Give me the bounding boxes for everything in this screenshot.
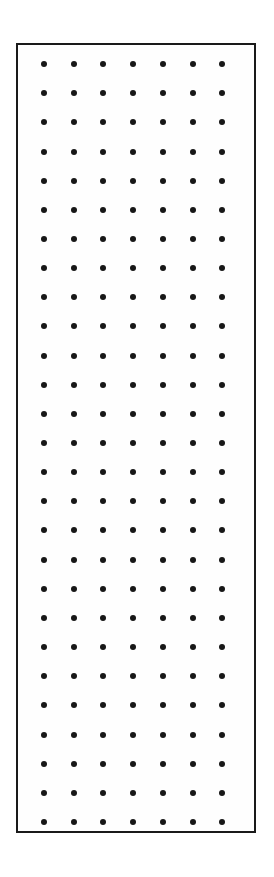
grid-dot	[219, 790, 225, 796]
grid-dot	[130, 440, 136, 446]
grid-dot	[100, 644, 106, 650]
grid-dot	[100, 615, 106, 621]
dot-grid-figure	[0, 0, 274, 877]
grid-dot	[100, 498, 106, 504]
grid-dot	[190, 557, 196, 563]
grid-dot	[41, 615, 47, 621]
grid-dot	[71, 557, 77, 563]
grid-dot	[71, 149, 77, 155]
grid-dot	[41, 207, 47, 213]
grid-dot	[71, 790, 77, 796]
grid-dot	[41, 61, 47, 67]
grid-dot	[160, 761, 166, 767]
grid-dot	[100, 790, 106, 796]
grid-dot	[100, 323, 106, 329]
grid-dot	[71, 586, 77, 592]
grid-dot	[130, 178, 136, 184]
grid-dot	[130, 61, 136, 67]
grid-dot	[160, 353, 166, 359]
grid-dot	[130, 149, 136, 155]
grid-dot	[160, 61, 166, 67]
grid-dot	[219, 615, 225, 621]
grid-dot	[71, 761, 77, 767]
grid-dot	[71, 207, 77, 213]
grid-dot	[219, 90, 225, 96]
grid-dot	[100, 294, 106, 300]
grid-dot	[130, 527, 136, 533]
grid-dot	[160, 702, 166, 708]
grid-dot	[100, 527, 106, 533]
grid-dot	[160, 236, 166, 242]
grid-dot	[219, 557, 225, 563]
grid-dot	[190, 673, 196, 679]
grid-dot	[130, 236, 136, 242]
grid-dot	[100, 90, 106, 96]
grid-dot	[219, 294, 225, 300]
grid-dot	[100, 586, 106, 592]
grid-dot	[160, 119, 166, 125]
grid-dot	[160, 586, 166, 592]
grid-dot	[160, 673, 166, 679]
grid-dot	[41, 119, 47, 125]
grid-dot	[130, 586, 136, 592]
grid-dot	[130, 761, 136, 767]
grid-dot	[71, 615, 77, 621]
grid-frame-border	[16, 43, 256, 833]
grid-dot	[41, 411, 47, 417]
grid-dot	[190, 469, 196, 475]
grid-dot	[160, 178, 166, 184]
grid-dot	[41, 498, 47, 504]
grid-dot	[130, 673, 136, 679]
grid-dot	[71, 673, 77, 679]
grid-dot	[41, 323, 47, 329]
grid-dot	[41, 178, 47, 184]
grid-dot	[160, 294, 166, 300]
grid-dot	[71, 353, 77, 359]
grid-dot	[130, 469, 136, 475]
grid-dot	[219, 353, 225, 359]
grid-dot	[219, 819, 225, 825]
grid-dot	[190, 265, 196, 271]
grid-dot	[190, 61, 196, 67]
grid-dot	[41, 702, 47, 708]
grid-dot	[71, 294, 77, 300]
grid-dot	[130, 90, 136, 96]
grid-dot	[130, 644, 136, 650]
grid-dot	[130, 498, 136, 504]
grid-dot	[160, 790, 166, 796]
grid-dot	[41, 586, 47, 592]
grid-dot	[100, 702, 106, 708]
grid-dot	[41, 761, 47, 767]
grid-dot	[71, 498, 77, 504]
grid-dot	[160, 819, 166, 825]
grid-dot	[130, 119, 136, 125]
grid-dot	[100, 819, 106, 825]
grid-dot	[71, 527, 77, 533]
grid-dot	[130, 557, 136, 563]
dot-grid-layer	[18, 45, 254, 831]
grid-dot	[160, 440, 166, 446]
grid-dot	[219, 527, 225, 533]
grid-dot	[219, 61, 225, 67]
grid-dot	[190, 294, 196, 300]
grid-dot	[160, 732, 166, 738]
grid-dot	[219, 411, 225, 417]
grid-dot	[190, 527, 196, 533]
grid-dot	[130, 702, 136, 708]
grid-dot	[160, 207, 166, 213]
grid-dot	[100, 732, 106, 738]
grid-dot	[190, 236, 196, 242]
grid-dot	[190, 440, 196, 446]
grid-dot	[190, 819, 196, 825]
grid-dot	[41, 382, 47, 388]
grid-dot	[130, 207, 136, 213]
grid-dot	[219, 236, 225, 242]
grid-dot	[219, 119, 225, 125]
grid-dot	[71, 119, 77, 125]
grid-dot	[41, 236, 47, 242]
grid-dot	[190, 732, 196, 738]
grid-dot	[41, 732, 47, 738]
grid-dot	[71, 61, 77, 67]
grid-dot	[71, 382, 77, 388]
grid-dot	[160, 527, 166, 533]
